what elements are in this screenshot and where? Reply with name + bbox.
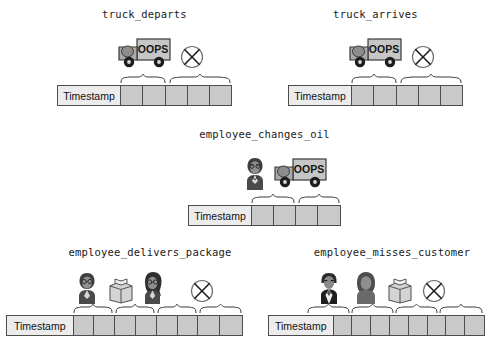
field-cell	[178, 316, 199, 335]
field-brace	[251, 194, 295, 203]
record-row: Timestamp	[188, 205, 341, 226]
panel-truck-arrives: truck_arrives OOPS	[288, 8, 463, 118]
package-icon	[384, 264, 416, 304]
timestamp-cell: Timestamp	[189, 206, 252, 225]
employee-icon	[72, 264, 102, 304]
field-cell	[428, 316, 447, 335]
field-brace	[199, 304, 242, 313]
field-brace	[169, 74, 231, 83]
field-cell	[374, 86, 397, 105]
customer-icon	[138, 264, 168, 304]
icon-row	[57, 264, 243, 304]
field-brace	[73, 304, 113, 313]
field-cell	[210, 86, 231, 105]
record-row: Timestamp	[57, 85, 232, 106]
field-cell	[296, 206, 318, 225]
panel-title: employee_misses_customer	[299, 246, 485, 258]
field-cell	[441, 86, 462, 105]
field-cell	[390, 316, 409, 335]
field-brace	[400, 74, 462, 83]
icon-row: OOPS	[288, 30, 463, 70]
field-cell	[334, 316, 353, 335]
field-brace	[115, 304, 155, 313]
crossed-circle-icon	[420, 264, 448, 304]
svg-text:OOPS: OOPS	[369, 43, 399, 55]
panel-title: truck_arrives	[288, 8, 463, 20]
panel-employee-misses-customer: employee_misses_customer	[299, 246, 485, 346]
package-icon	[105, 264, 137, 304]
field-cell	[352, 316, 371, 335]
field-cell	[143, 86, 166, 105]
field-brace	[351, 74, 397, 83]
field-cell	[115, 316, 136, 335]
truck-icon: OOPS	[115, 30, 173, 70]
field-cell	[252, 206, 274, 225]
employee-male-icon	[314, 264, 344, 304]
crossed-circle-icon	[188, 264, 216, 304]
field-cell	[409, 316, 428, 335]
icon-row	[299, 264, 485, 304]
icon-row: OOPS	[57, 30, 232, 70]
timestamp-cell: Timestamp	[289, 86, 352, 105]
field-cell	[274, 206, 297, 225]
field-brace	[395, 304, 438, 313]
field-cell	[74, 316, 95, 335]
field-cell	[419, 86, 441, 105]
field-brace	[351, 304, 394, 313]
panel-title: employee_changes_oil	[188, 128, 341, 140]
field-cell	[318, 206, 340, 225]
record-row: Timestamp	[288, 85, 463, 106]
employee-icon	[240, 150, 270, 190]
panel-employee-delivers-package: employee_delivers_package	[57, 246, 243, 346]
svg-text:OOPS: OOPS	[294, 163, 324, 175]
field-cell	[166, 86, 188, 105]
record-row: Timestamp	[268, 315, 485, 336]
timestamp-cell: Timestamp	[269, 316, 334, 335]
field-cell	[465, 316, 484, 335]
field-cell	[352, 86, 374, 105]
customer-icon	[351, 264, 381, 304]
crossed-circle-icon	[178, 30, 206, 70]
field-brace	[298, 194, 340, 203]
field-cell	[136, 316, 157, 335]
field-cell	[446, 316, 465, 335]
timestamp-cell: Timestamp	[7, 316, 74, 335]
field-brace	[307, 304, 350, 313]
field-brace	[157, 304, 197, 313]
field-cell	[94, 316, 115, 335]
truck-icon: OOPS	[271, 150, 329, 190]
field-cell	[397, 86, 419, 105]
panel-employee-changes-oil: employee_changes_oil OOPS	[188, 128, 341, 238]
timestamp-cell: Timestamp	[58, 86, 121, 105]
panel-title: truck_departs	[57, 8, 232, 20]
field-cell	[198, 316, 220, 335]
field-cell	[371, 316, 390, 335]
svg-text:OOPS: OOPS	[138, 43, 168, 55]
record-row: Timestamp	[6, 315, 243, 336]
field-cell	[121, 86, 143, 105]
field-cell	[188, 86, 210, 105]
field-brace	[120, 74, 166, 83]
panel-truck-departs: truck_departs OOPS	[57, 8, 232, 118]
crossed-circle-icon	[409, 30, 437, 70]
truck-icon: OOPS	[346, 30, 404, 70]
field-cell	[220, 316, 242, 335]
field-brace	[439, 304, 483, 313]
field-cell	[157, 316, 178, 335]
icon-row: OOPS	[188, 150, 341, 190]
panel-title: employee_delivers_package	[57, 246, 243, 258]
